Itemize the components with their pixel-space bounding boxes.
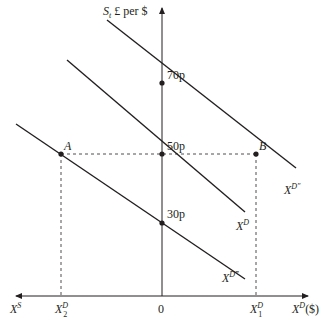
point-30p bbox=[159, 220, 164, 225]
label-curve-middle: XD bbox=[235, 218, 249, 233]
label-curve-lower: XD‴ bbox=[221, 270, 239, 285]
origin-label: 0 bbox=[158, 302, 164, 316]
x-axis-right-label: XD($) bbox=[291, 301, 319, 316]
tick-70p: 70p bbox=[167, 68, 185, 82]
point-50p bbox=[159, 151, 164, 156]
label-curve-upper: XD″ bbox=[283, 182, 301, 197]
curve-upper bbox=[107, 20, 296, 168]
label-b: B bbox=[259, 139, 267, 153]
label-a: A bbox=[63, 139, 72, 153]
point-70p bbox=[159, 80, 164, 85]
point-a bbox=[58, 151, 63, 156]
x-tick-2: XD2 bbox=[54, 301, 68, 319]
tick-50p: 50p bbox=[167, 139, 185, 153]
x-axis-left-label: XS bbox=[9, 301, 21, 316]
tick-30p: 30p bbox=[167, 207, 185, 221]
curve-lower bbox=[16, 124, 245, 279]
curve-middle bbox=[67, 60, 245, 212]
x-tick-1: XD1 bbox=[249, 301, 263, 319]
y-axis-label: St £ per $ bbox=[103, 4, 148, 20]
point-b bbox=[253, 151, 258, 156]
exchange-rate-diagram: St £ per $ 70p 50p 30p A B XD″ XD XD‴ XS… bbox=[0, 0, 331, 320]
